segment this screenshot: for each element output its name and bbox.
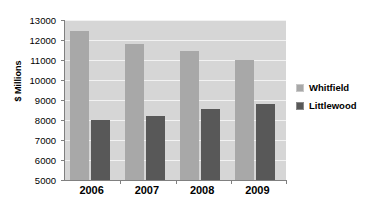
y-axis-tick-label: 11000 bbox=[30, 55, 56, 66]
chart-legend: WhitfieldLittlewood bbox=[296, 82, 368, 118]
y-axis-tick-label: 6000 bbox=[35, 155, 56, 166]
legend-label: Littlewood bbox=[309, 100, 357, 111]
bar-whitfield-2006 bbox=[70, 31, 89, 180]
bar-whitfield-2009 bbox=[235, 60, 254, 180]
x-axis-tick-label: 2009 bbox=[245, 184, 269, 196]
bar-group bbox=[65, 20, 120, 180]
bar-littlewood-2009 bbox=[256, 104, 275, 180]
bar-chart: $ Millions 50006000700080009000100001100… bbox=[0, 0, 369, 212]
y-axis-tick-label: 10000 bbox=[30, 75, 56, 86]
legend-swatch-icon bbox=[296, 84, 304, 92]
y-axis-tick-label: 9000 bbox=[35, 95, 56, 106]
x-axis-tick-label: 2006 bbox=[79, 184, 103, 196]
bar-group bbox=[176, 20, 231, 180]
x-axis-tick-mark bbox=[286, 180, 287, 184]
bar-whitfield-2007 bbox=[125, 44, 144, 180]
y-axis-tick-mark bbox=[61, 180, 65, 181]
legend-item-whitfield[interactable]: Whitfield bbox=[296, 82, 368, 93]
x-axis-tick-label: 2008 bbox=[190, 184, 214, 196]
y-axis-tick-label: 12000 bbox=[30, 35, 56, 46]
bar-littlewood-2007 bbox=[146, 116, 165, 180]
bar-group bbox=[120, 20, 175, 180]
bar-group bbox=[231, 20, 286, 180]
y-axis-tick-labels: 5000600070008000900010000110001200013000 bbox=[14, 20, 60, 180]
bar-whitfield-2008 bbox=[180, 51, 199, 180]
legend-label: Whitfield bbox=[309, 82, 349, 93]
x-axis-tick-labels: 2006200720082009 bbox=[64, 184, 285, 202]
bar-littlewood-2006 bbox=[91, 120, 110, 180]
y-axis-tick-label: 7000 bbox=[35, 135, 56, 146]
plot-area bbox=[64, 20, 286, 181]
legend-swatch-icon bbox=[296, 102, 304, 110]
y-axis-tick-label: 13000 bbox=[30, 15, 56, 26]
x-axis-tick-label: 2007 bbox=[135, 184, 159, 196]
legend-item-littlewood[interactable]: Littlewood bbox=[296, 100, 368, 111]
bar-littlewood-2008 bbox=[201, 109, 220, 180]
y-axis-tick-label: 5000 bbox=[35, 175, 56, 186]
y-axis-tick-label: 8000 bbox=[35, 115, 56, 126]
